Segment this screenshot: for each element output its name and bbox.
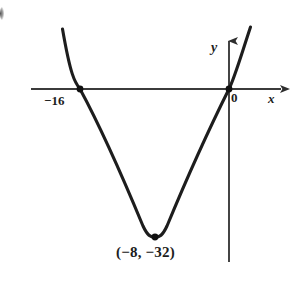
math-figure: y x 0 −16 (−8, −32) bbox=[0, 0, 295, 284]
x-intercept-marker bbox=[77, 86, 84, 93]
x-axis-label: x bbox=[268, 92, 275, 105]
y-axis-label: y bbox=[211, 41, 217, 55]
x-intercept-label: −16 bbox=[44, 94, 64, 107]
origin-label: 0 bbox=[231, 91, 238, 104]
parabola-curve bbox=[63, 27, 251, 237]
vertex-coordinate-label: (−8, −32) bbox=[116, 245, 175, 260]
parabola-plot bbox=[0, 0, 295, 284]
vertex-marker bbox=[152, 234, 159, 241]
